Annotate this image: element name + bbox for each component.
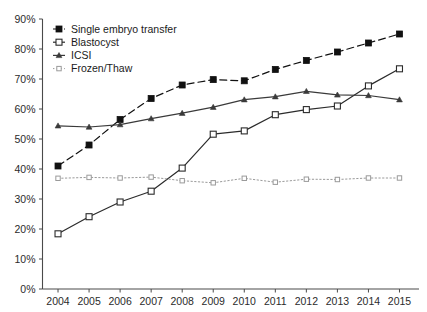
data-point-marker [87,175,91,179]
data-point-marker [179,165,185,171]
data-point-marker [397,176,401,180]
x-axis-tick-label: 2008 [171,295,195,307]
data-point-marker [304,177,308,181]
data-point-marker [86,214,92,220]
data-point-marker [396,66,402,72]
data-point-marker [86,142,92,148]
data-point-marker [56,26,62,32]
data-point-marker [148,96,154,102]
data-point-marker [365,83,371,89]
y-axis-tick-label: 30% [14,193,35,205]
data-point-marker [273,180,277,184]
x-axis-tick-label: 2007 [139,295,163,307]
data-point-marker [241,78,247,84]
y-axis-tick-label: 50% [14,133,35,145]
x-axis-tick-label: 2011 [264,295,287,307]
x-axis-tick-label: 2013 [326,295,350,307]
x-axis-tick-label: 2012 [295,295,319,307]
x-axis-tick-label: 2006 [108,295,132,307]
data-point-marker [148,188,154,194]
chart-container: 0%10%20%30%40%50%60%70%80%90% 2004200520… [0,0,427,312]
chart-background [0,0,427,312]
data-point-marker [334,103,340,109]
data-point-marker [396,31,402,37]
y-axis-tick-label: 70% [14,73,35,85]
data-point-marker [55,231,61,237]
data-point-marker [211,181,215,185]
data-point-marker [180,179,184,183]
data-point-marker [210,77,216,83]
legend-item-label: Frozen/Thaw [71,62,133,74]
data-point-marker [303,57,309,63]
x-axis-tick-label: 2005 [77,295,101,307]
x-axis-tick-label: 2010 [233,295,257,307]
data-point-marker [57,66,61,70]
data-point-marker [334,49,340,55]
data-point-marker [179,82,185,88]
x-axis-tick-label: 2004 [46,295,70,307]
y-axis-tick-label: 90% [14,13,35,25]
y-axis-tick-label: 60% [14,103,35,115]
data-point-marker [272,112,278,118]
data-point-marker [56,176,60,180]
data-point-marker [365,40,371,46]
legend-item-label: Single embryo transfer [71,23,177,35]
x-axis-tick-label: 2014 [357,295,381,307]
y-axis-tick-label: 20% [14,223,35,235]
data-point-marker [55,163,61,169]
data-point-marker [56,39,62,45]
legend-item-label: ICSI [71,49,91,61]
line-chart: 0%10%20%30%40%50%60%70%80%90% 2004200520… [0,0,427,312]
data-point-marker [303,107,309,113]
data-point-marker [366,176,370,180]
data-point-marker [210,131,216,137]
data-point-marker [242,176,246,180]
y-axis-tick-label: 10% [14,253,35,265]
y-axis-tick-label: 80% [14,43,35,55]
data-point-marker [335,177,339,181]
y-axis-tick-label: 0% [20,283,35,295]
data-point-marker [117,199,123,205]
data-point-marker [118,176,122,180]
data-point-marker [241,128,247,134]
legend-item-label: Blastocyst [71,36,119,48]
x-axis-tick-label: 2009 [202,295,226,307]
x-axis-tick-label: 2015 [388,295,412,307]
data-point-marker [149,175,153,179]
data-point-marker [272,66,278,72]
y-axis-tick-label: 40% [14,163,35,175]
